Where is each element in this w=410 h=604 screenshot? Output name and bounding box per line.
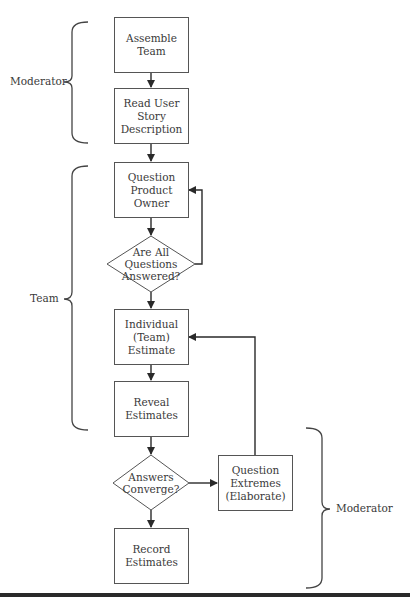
decision-all-answered: Are All Questions Answered? [112,244,190,284]
node-question-product-owner: Question Product Owner [114,162,189,218]
node-question-extremes: Question Extremes (Elaborate) [218,455,293,511]
node-reveal-estimates: Reveal Estimates [114,381,189,437]
group-label-moderator-top: Moderator [10,75,67,87]
decision-answers-converge: Answers Converge? [116,468,186,498]
group-label-moderator-bottom: Moderator [336,502,393,514]
node-individual-estimate: Individual (Team) Estimate [114,309,189,365]
group-label-team: Team [30,292,59,304]
brace-left-team [64,166,88,430]
brace-left-moderator [64,22,88,143]
node-assemble-team: Assemble Team [114,17,189,73]
bottom-rule [0,593,410,597]
node-read-user-story: Read User Story Description [114,88,189,144]
brace-right-moderator [306,428,330,588]
node-record-estimates: Record Estimates [114,528,189,584]
